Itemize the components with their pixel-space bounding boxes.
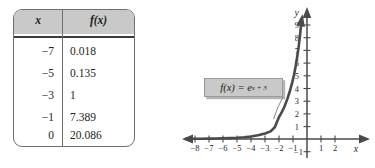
figure-container: x f(x) −7 0.018 −5 0.135 −3 1 −1 7.389 0… <box>0 0 375 168</box>
cell-fx: 20.086 <box>70 124 132 146</box>
x-tick-labels: −8 −7 −6 −5 −4 −3 −2 −1 1 2 <box>191 144 338 153</box>
function-label-text: f(x) = ex + 3 <box>205 79 282 96</box>
column-header-fx: f(x) <box>62 14 135 26</box>
y-tick-label: 2 <box>295 110 299 119</box>
x-tick-label: 2 <box>333 144 337 153</box>
data-table: x f(x) −7 0.018 −5 0.135 −3 1 −1 7.389 0… <box>13 9 135 147</box>
function-label-exponent: x + 3 <box>252 84 267 92</box>
y-axis <box>303 7 312 158</box>
x-tick-label: 1 <box>319 144 323 153</box>
x-tick-label: −7 <box>205 144 214 153</box>
x-tick-label: −6 <box>219 144 228 153</box>
table-row: −5 0.135 <box>14 62 134 84</box>
y-tick-label: 1 <box>295 123 299 132</box>
table-inner: x f(x) −7 0.018 −5 0.135 −3 1 −1 7.389 0… <box>14 10 134 146</box>
callout-leader-line <box>274 97 284 119</box>
x-tick-label: −5 <box>233 144 242 153</box>
cell-x: −5 <box>14 62 54 84</box>
table-row: −3 1 <box>14 84 134 106</box>
column-header-x: x <box>14 14 62 26</box>
cell-x: −7 <box>14 40 54 62</box>
y-tick-label-negative: −1 <box>294 148 303 157</box>
x-axis-label: x <box>353 143 359 154</box>
y-axis-label: y <box>294 7 300 18</box>
function-label-base: f(x) = e <box>220 82 252 93</box>
cell-x: −3 <box>14 84 54 106</box>
x-tick-label: −3 <box>261 144 270 153</box>
y-tick-label: 3 <box>295 97 299 106</box>
x-tick-label: −4 <box>247 144 257 153</box>
cell-fx: 0.018 <box>70 40 132 62</box>
x-tick-label: −2 <box>275 144 284 153</box>
table-row: 0 20.086 <box>14 124 134 146</box>
x-tick-label: −8 <box>191 144 200 153</box>
cell-fx: 0.135 <box>70 62 132 84</box>
cell-fx: 1 <box>70 84 132 106</box>
function-label-callout: f(x) = ex + 3 <box>204 78 283 97</box>
y-tick-label: 4 <box>295 85 300 94</box>
cell-x: 0 <box>14 124 54 146</box>
table-row: −7 0.018 <box>14 40 134 62</box>
table-header-rule <box>14 36 134 38</box>
